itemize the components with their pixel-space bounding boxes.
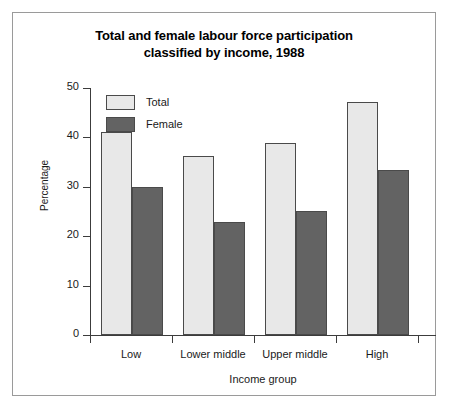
x-axis-spine xyxy=(90,335,436,336)
chart-legend: Total Female xyxy=(106,92,183,136)
y-axis-title: Percentage xyxy=(39,160,50,211)
y-tick-label-10: 10 xyxy=(67,278,79,290)
bar-female-lower-middle xyxy=(214,222,245,335)
bar-female-upper-middle xyxy=(296,211,327,335)
bar-total-lower-middle xyxy=(183,156,214,335)
legend-label-total: Total xyxy=(146,96,169,108)
y-tick-label-40: 40 xyxy=(67,129,79,141)
legend-item-female: Female xyxy=(106,114,183,134)
y-tick-label-0: 0 xyxy=(73,327,79,339)
x-axis-title: Income group xyxy=(90,373,436,385)
bar-female-high xyxy=(378,170,409,335)
chart-figure-frame: Total and female labour force participat… xyxy=(12,12,436,396)
x-tick-boundary-0 xyxy=(90,336,91,343)
y-tick-label-50: 50 xyxy=(67,80,79,92)
legend-swatch-total-icon xyxy=(106,95,135,110)
bar-female-low xyxy=(132,187,163,335)
legend-swatch-female-icon xyxy=(106,117,135,132)
y-tick-label-30: 30 xyxy=(67,179,79,191)
y-axis-spine xyxy=(90,88,91,335)
x-category-label-low: Low xyxy=(121,348,141,360)
y-tick-label-20: 20 xyxy=(67,228,79,240)
x-tick-boundary-3 xyxy=(336,336,337,343)
x-category-label-upper-middle: Upper middle xyxy=(262,348,327,360)
chart-title: Total and female labour force participat… xyxy=(13,27,435,61)
x-category-label-high: High xyxy=(366,348,389,360)
legend-item-total: Total xyxy=(106,92,183,112)
x-tick-boundary-4 xyxy=(418,336,419,343)
chart-title-line-1: Total and female labour force participat… xyxy=(13,27,435,44)
legend-label-female: Female xyxy=(146,118,183,130)
chart-title-line-2: classified by income, 1988 xyxy=(13,44,435,61)
x-tick-boundary-2 xyxy=(254,336,255,343)
x-tick-boundary-1 xyxy=(172,336,173,343)
bar-total-high xyxy=(347,102,378,335)
bar-total-upper-middle xyxy=(265,143,296,335)
bar-total-low xyxy=(101,132,132,336)
x-category-label-lower-middle: Lower middle xyxy=(180,348,245,360)
